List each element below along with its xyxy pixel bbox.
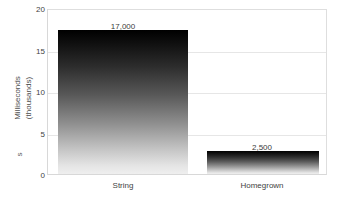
bar-value-label-string: 17,000: [58, 22, 188, 32]
y-tick-label-5: 5: [26, 129, 45, 140]
y-axis-title: Milliseconds (thousands): [2, 52, 24, 144]
y-tick-label-15: 15: [26, 46, 45, 57]
bar-homegrown[interactable]: [207, 151, 319, 174]
y-axis-title-extra: s: [14, 147, 25, 163]
y-axis-tick-labels: 20 15 10 5 0: [26, 0, 45, 198]
bar-value-label-homegrown: 2,500: [206, 143, 318, 153]
bar-string[interactable]: [58, 30, 188, 174]
y-tick-label-0: 0: [26, 170, 45, 181]
y-tick-label-10: 10: [26, 87, 45, 98]
x-axis-label-homegrown: Homegrown: [206, 180, 318, 191]
y-tick-label-20: 20: [26, 4, 45, 15]
y-axis-title-line-1: Milliseconds: [12, 52, 23, 144]
bar-chart: Milliseconds (thousands) s 20 15 10 5 0 …: [0, 0, 343, 198]
x-axis-label-string: String: [58, 180, 188, 191]
